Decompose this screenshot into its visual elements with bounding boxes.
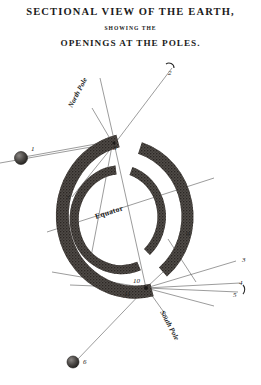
ray-line-to-6	[77, 288, 146, 360]
callout-label-9: 9	[186, 230, 190, 238]
ray-lines	[0, 68, 240, 360]
earth-section-diagram: North Pole South Pole Equator 1 2 3 4 5 …	[0, 0, 261, 385]
sphere-icon-6	[67, 356, 79, 368]
callout-label-10: 10	[133, 277, 141, 285]
south-convergence-point	[144, 286, 148, 290]
label-north-pole: North Pole	[66, 76, 89, 110]
ray-line-5	[90, 146, 112, 262]
callout-label-2: 2	[168, 69, 172, 77]
callout-label-4: 4	[239, 279, 243, 287]
sphere-group	[15, 141, 149, 368]
callout-label-7: 7	[66, 194, 70, 202]
callout-label-11: 11	[124, 290, 130, 298]
arc-glyph-2-icon	[166, 63, 174, 68]
ray-line-2	[113, 68, 172, 146]
callout-label-8: 8	[113, 144, 117, 152]
engraving-plate: SECTIONAL VIEW OF THE EARTH, SHOWING THE…	[0, 0, 261, 385]
callout-label-1: 1	[31, 145, 35, 153]
callout-label-5: 5	[233, 291, 237, 299]
callout-label-3: 3	[241, 256, 246, 264]
sphere-icon-1	[15, 152, 28, 165]
leader-line-north-pole	[92, 108, 112, 142]
callout-label-6: 6	[83, 358, 87, 366]
label-south-pole: South Pole	[158, 309, 181, 342]
inner-shell-ring	[74, 170, 161, 270]
arc-glyph-5-icon	[243, 285, 245, 294]
label-equator: Equator	[94, 203, 125, 221]
